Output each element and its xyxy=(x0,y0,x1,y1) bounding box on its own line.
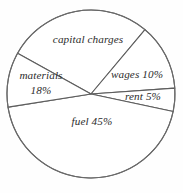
pie-chart: capital charges materials 18% wages 10% … xyxy=(0,0,183,193)
pie-slice-fuel xyxy=(8,94,173,178)
pie-label-materials-name: materials xyxy=(8,68,74,83)
pie-label-rent: rent 5% xyxy=(110,90,176,103)
pie-label-wages: wages 10% xyxy=(99,68,175,81)
pie-label-materials: materials 18% xyxy=(8,68,74,98)
pie-label-capital-charges: capital charges xyxy=(36,33,140,46)
pie-label-materials-percent: 18% xyxy=(8,83,74,98)
pie-label-fuel: fuel 45% xyxy=(52,115,132,128)
